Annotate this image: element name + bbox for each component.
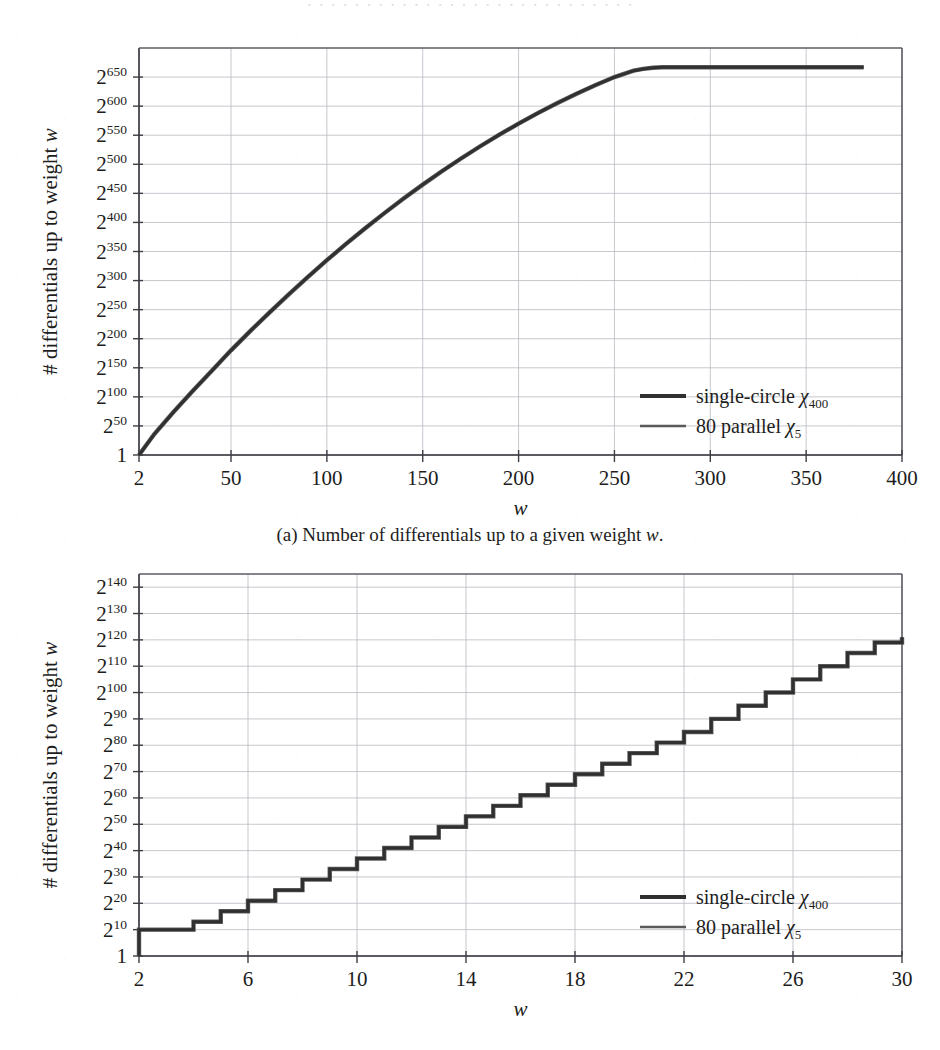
caption-a-variable: w [646, 524, 659, 545]
chart-a-canvas: 1250210021502200225023002350240024502500… [0, 0, 940, 520]
ytick-exponent: 10 [114, 917, 128, 932]
figure-a-caption: (a) Number of differentials up to a give… [0, 524, 940, 546]
ytick-base: 2 [96, 327, 107, 351]
ytick-exponent: 100 [107, 680, 128, 695]
ytick-label: 260 [103, 785, 127, 810]
ytick-label: 290 [103, 706, 127, 731]
chart-ytick-labels: 1210220230240250260270280290210021102120… [96, 574, 127, 968]
legend-label: single-circle χ400 [696, 385, 828, 411]
ytick-base: 2 [103, 786, 114, 810]
legend-chi-subscript: 400 [809, 396, 829, 411]
ytick-exponent: 50 [114, 413, 128, 428]
ytick-base: 2 [96, 269, 107, 293]
ytick-base: 2 [96, 681, 107, 705]
legend-label-text: 80 parallel [696, 415, 786, 438]
xtick-label: 22 [674, 967, 695, 991]
ytick-base: 2 [96, 356, 107, 380]
legend-label-text: 80 parallel [696, 916, 786, 939]
ytick-base: 2 [96, 385, 107, 409]
ytick-label: 2650 [96, 64, 127, 89]
ytick-exponent: 60 [114, 785, 128, 800]
ytick-label: 280 [103, 732, 127, 757]
ytick-label: 240 [103, 838, 127, 863]
series-line [139, 637, 902, 956]
ytick-label: 2100 [96, 384, 127, 409]
ytick-base: 2 [96, 575, 107, 599]
ytick-exponent: 40 [114, 838, 128, 853]
legend-label-text: single-circle [696, 886, 800, 909]
ytick-exponent: 140 [107, 574, 128, 589]
ytick-base: 2 [96, 628, 107, 652]
ytick-exponent: 450 [107, 180, 128, 195]
ytick-label: 2500 [96, 151, 127, 176]
ytick-exponent: 350 [107, 239, 128, 254]
ytick-exponent: 120 [107, 627, 128, 642]
ytick-label: 2150 [96, 355, 127, 380]
ytick-exponent: 130 [107, 601, 128, 616]
ytick-base: 2 [103, 918, 114, 942]
xtick-label: 18 [565, 967, 586, 991]
xtick-label: 150 [407, 466, 439, 490]
ytick-label: 2300 [96, 268, 127, 293]
ytick-exponent: 500 [107, 151, 128, 166]
legend-chi-subscript: 5 [795, 927, 802, 942]
ytick-label: 2550 [96, 122, 127, 147]
ytick-base: 2 [103, 812, 114, 836]
figure-b: 1210220230240250260270280290210021102120… [0, 552, 940, 1050]
ytick-exponent: 50 [114, 811, 128, 826]
chart-ytick-labels: 1250210021502200225023002350240024502500… [96, 64, 127, 467]
xtick-label: 400 [886, 466, 918, 490]
legend-chi-subscript: 5 [795, 426, 802, 441]
ytick-base: 1 [117, 443, 128, 467]
ytick-base: 2 [96, 152, 107, 176]
xtick-label: 30 [892, 967, 913, 991]
chart-series-group [139, 637, 902, 956]
ytick-base: 2 [103, 865, 114, 889]
ytick-exponent: 30 [114, 864, 128, 879]
ytick-label: 1 [117, 443, 128, 467]
ytick-label: 2140 [96, 574, 127, 599]
legend-label: single-circle χ400 [696, 886, 828, 912]
ytick-exponent: 90 [114, 706, 128, 721]
chart-a-container: 1250210021502200225023002350240024502500… [0, 0, 940, 520]
figure-a: 1250210021502200225023002350240024502500… [0, 0, 940, 552]
xtick-label: 100 [311, 466, 343, 490]
ytick-label: 2200 [96, 326, 127, 351]
ytick-label: 2600 [96, 93, 127, 118]
ytick-exponent: 550 [107, 122, 128, 137]
xtick-label: 10 [347, 967, 368, 991]
legend-chi-subscript: 400 [809, 897, 829, 912]
ytick-exponent: 650 [107, 64, 128, 79]
figure-page: · · · · · · · · · · · · · · · · · · · · … [0, 0, 940, 1050]
chart-xtick-labels: 250100150200250300350400 [134, 466, 918, 490]
xtick-label: 50 [221, 466, 242, 490]
y-axis-title: # differentials up to weight w [38, 642, 62, 888]
ytick-base: 2 [96, 602, 107, 626]
ytick-label: 2350 [96, 239, 127, 264]
ytick-base: 2 [103, 760, 114, 784]
xtick-label: 6 [243, 967, 254, 991]
legend-item-80-parallel: 80 parallel χ5 [640, 916, 801, 942]
chart-legend: single-circle χ40080 parallel χ5 [640, 886, 828, 942]
legend-item-single-circle: single-circle χ400 [640, 385, 828, 411]
ytick-base: 2 [96, 298, 107, 322]
x-axis-title: w [513, 997, 527, 1021]
ytick-base: 2 [103, 891, 114, 915]
ytick-label: 2450 [96, 180, 127, 205]
y-axis-title: # differentials up to weight w [38, 128, 62, 374]
ytick-base: 2 [97, 654, 108, 678]
ytick-exponent: 400 [107, 209, 128, 224]
caption-a-suffix: . [659, 524, 664, 545]
ytick-exponent: 100 [107, 384, 128, 399]
xtick-label: 250 [599, 466, 631, 490]
y-axis-title-group: # differentials up to weight w [38, 128, 62, 374]
ytick-base: 1 [117, 944, 128, 968]
ytick-base: 2 [103, 839, 114, 863]
ytick-base: 2 [96, 240, 107, 264]
xtick-label: 14 [456, 967, 478, 991]
y-axis-title-text: # differentials up to weight [38, 142, 62, 374]
ytick-base: 2 [96, 123, 107, 147]
xtick-label: 350 [790, 466, 822, 490]
ytick-exponent: 300 [107, 268, 128, 283]
ytick-base: 2 [96, 94, 107, 118]
